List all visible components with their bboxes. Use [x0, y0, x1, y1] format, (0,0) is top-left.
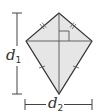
d1-label: d1	[6, 46, 21, 65]
kite-diagram: d1 d2	[0, 0, 100, 112]
d2-label: d2	[48, 94, 63, 112]
